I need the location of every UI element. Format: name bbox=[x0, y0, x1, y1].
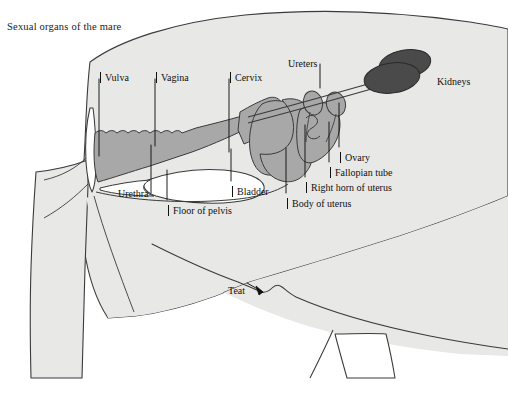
label-ureters: Ureters bbox=[288, 58, 317, 69]
label-vulva: Vulva bbox=[100, 72, 129, 83]
label-body-of-uterus: Body of uterus bbox=[287, 198, 351, 209]
diagram-page: Sexual organs of the mare VulvaVaginaCer… bbox=[0, 0, 508, 400]
label-ovary: Ovary bbox=[340, 152, 370, 163]
label-bladder: Bladder bbox=[232, 186, 269, 197]
fore-leg-outline bbox=[335, 334, 395, 378]
horse-body-group bbox=[30, 11, 508, 378]
label-fallopian-tube: Fallopian tube bbox=[330, 167, 393, 178]
label-teat: Teat bbox=[228, 285, 245, 296]
page-title: Sexual organs of the mare bbox=[7, 21, 121, 32]
label-cervix: Cervix bbox=[230, 72, 262, 83]
label-right-horn-of-uterus: Right horn of uterus bbox=[306, 182, 392, 193]
label-vagina: Vagina bbox=[156, 72, 189, 83]
label-urethra: Urethra bbox=[118, 188, 149, 199]
label-kidneys: Kidneys bbox=[437, 76, 470, 87]
chest-diagonal-line bbox=[310, 330, 333, 378]
label-floor-of-pelvis: Floor of pelvis bbox=[168, 205, 232, 216]
mare-anatomy-illustration bbox=[0, 0, 508, 400]
